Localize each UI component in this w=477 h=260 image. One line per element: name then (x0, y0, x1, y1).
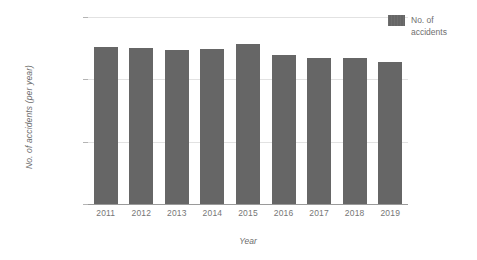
x-tick-label-2018: 2018 (337, 208, 373, 218)
legend-label-line-2: accidents (411, 26, 447, 38)
legend-swatch-no-of-accidents (388, 15, 405, 26)
bar-slot-2015 (230, 17, 266, 204)
bar-slot-2016 (266, 17, 302, 204)
bar-2019[interactable] (378, 62, 402, 204)
bar-slot-2017 (301, 17, 337, 204)
legend: No. of accidents (388, 14, 447, 38)
x-tick-label-2015: 2015 (230, 208, 266, 218)
x-tick-label-2019: 2019 (373, 208, 409, 218)
bar-chart: No. of accidents (per year) 600,000 400,… (0, 0, 477, 260)
plot-area (88, 17, 408, 205)
bar-2016[interactable] (272, 55, 296, 204)
bar-slot-2012 (124, 17, 160, 204)
bar-2014[interactable] (200, 49, 224, 204)
bar-2013[interactable] (165, 50, 189, 204)
x-axis-title: Year (88, 236, 408, 246)
bar-2017[interactable] (307, 58, 331, 204)
bar-slot-2011 (88, 17, 124, 204)
bar-series (88, 17, 408, 204)
x-axis-line (88, 204, 408, 205)
x-tick-label-2013: 2013 (159, 208, 195, 218)
x-tick-label-2012: 2012 (124, 208, 160, 218)
x-tick-label-2011: 2011 (88, 208, 124, 218)
x-tick-label-2016: 2016 (266, 208, 302, 218)
bar-slot-2014 (195, 17, 231, 204)
bar-2015[interactable] (236, 44, 260, 205)
bar-2018[interactable] (343, 58, 367, 204)
x-tick-label-2014: 2014 (195, 208, 231, 218)
legend-label-no-of-accidents: No. of accidents (411, 14, 447, 38)
x-axis-tick-labels: 201120122013201420152016201720182019 (88, 208, 408, 218)
bar-slot-2018 (337, 17, 373, 204)
bar-2011[interactable] (94, 47, 118, 204)
bar-2012[interactable] (129, 48, 153, 204)
bar-slot-2013 (159, 17, 195, 204)
bar-slot-2019 (373, 17, 409, 204)
x-tick-label-2017: 2017 (301, 208, 337, 218)
tick-mark (83, 204, 88, 205)
y-axis-title: No. of accidents (per year) (24, 42, 34, 192)
legend-label-line-1: No. of (411, 14, 447, 26)
